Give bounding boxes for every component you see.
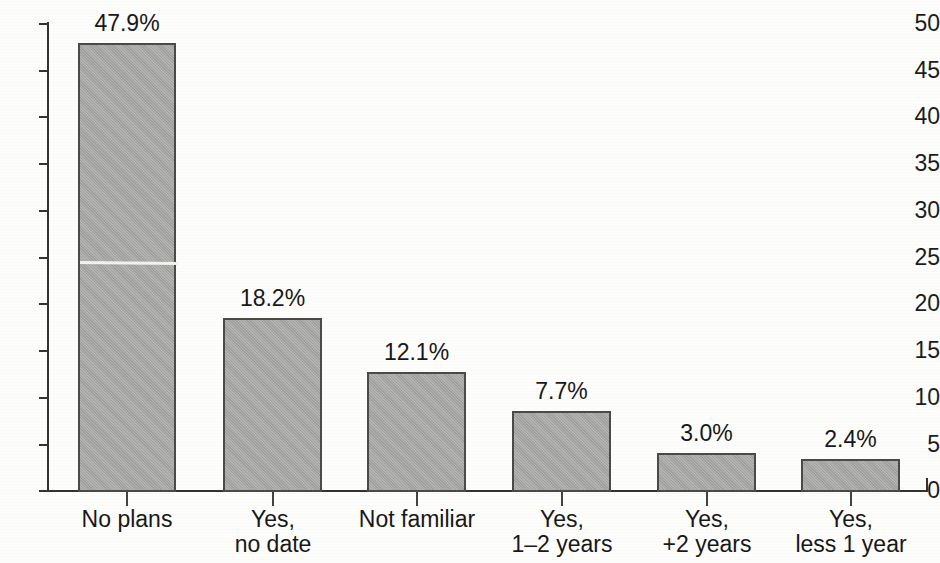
bar-yes-plus-2-years [657,453,756,492]
y-axis-tick [39,23,48,25]
x-axis-category-label: Yes, +2 years [627,507,787,557]
y-axis-label-45: 45 [904,59,940,82]
bar-chart: 50 45 40 35 30 25 20 15 10 5 0 47.9% 18.… [0,0,940,563]
y-axis-tick [39,70,48,72]
bar-no-plans [78,43,176,492]
x-axis-category-label: Yes, less 1 year [771,507,931,557]
y-axis-label-40: 40 [904,105,940,128]
x-axis-category-line1: No plans [47,507,207,532]
bar-yes-1-2-years [512,411,611,492]
y-axis-tick [39,257,48,259]
y-axis-label-30: 30 [904,199,940,222]
bar-value-label: 18.2% [223,287,322,310]
x-axis-tick [416,492,418,506]
x-axis-category-line1: Yes, [193,507,353,532]
chart-page: 50 45 40 35 30 25 20 15 10 5 0 47.9% 18.… [0,0,940,563]
bar-yes-no-date [223,318,322,492]
y-axis-tick [39,116,48,118]
y-axis-label-5: 5 [904,433,940,456]
bar-not-familiar [367,372,466,492]
y-axis-label-50: 50 [904,12,940,35]
x-axis-category-line1: Yes, [771,507,931,532]
y-axis-label-35: 35 [904,152,940,175]
x-axis-tick [561,492,563,506]
x-axis-category-line1: Yes, [482,507,642,532]
x-axis-category-line2: no date [193,532,353,557]
y-axis-label-25: 25 [904,246,940,269]
x-axis-tick [126,492,128,506]
x-axis-category-label: Yes, 1–2 years [482,507,642,557]
y-axis-tick [39,350,48,352]
x-axis-category-line2: 1–2 years [482,532,642,557]
x-axis-line [47,490,928,492]
y-axis-tick [39,303,48,305]
x-axis-category-line2: +2 years [627,532,787,557]
bar-value-label: 2.4% [801,428,900,451]
bar-yes-less-1-year [801,459,900,492]
scan-line-artifact [80,261,178,265]
y-axis-tick [39,444,48,446]
x-axis-category-label: No plans [47,507,207,532]
bar-value-label: 47.9% [78,12,176,35]
x-axis-tick [272,492,274,506]
y-axis-label-20: 20 [904,292,940,315]
x-axis-category-line1: Yes, [627,507,787,532]
y-axis-tick [39,163,48,165]
x-axis-tick [706,492,708,506]
x-axis-end-tick [926,478,928,491]
y-axis-label-15: 15 [904,339,940,362]
bar-value-label: 12.1% [367,341,466,364]
bar-value-label: 3.0% [657,422,756,445]
x-axis-category-line2: less 1 year [771,532,931,557]
y-axis-label-10: 10 [904,386,940,409]
x-axis-category-line1: Not familiar [337,507,497,532]
y-axis-tick [39,397,48,399]
x-axis-category-label: Not familiar [337,507,497,532]
x-axis-category-label: Yes, no date [193,507,353,557]
y-axis-tick [39,210,48,212]
x-axis-tick [850,492,852,506]
bar-value-label: 7.7% [512,380,611,403]
